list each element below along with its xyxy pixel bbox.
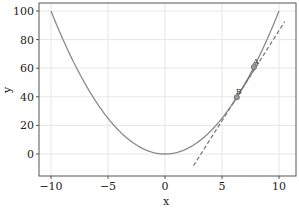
point-a-label: A (252, 57, 259, 66)
grid-lines (39, 3, 296, 176)
y-axis-ticks: 020406080100 (13, 5, 39, 161)
y-tick-label: 0 (27, 148, 34, 161)
y-tick-label: 100 (13, 5, 34, 18)
point-b-label: B (236, 87, 242, 96)
plot-series (51, 11, 285, 166)
y-tick-label: 20 (20, 119, 34, 132)
x-tick-label: −5 (100, 180, 116, 193)
x-tick-label: 0 (162, 180, 169, 193)
x-axis-label: x (163, 195, 170, 208)
y-tick-label: 80 (20, 34, 34, 47)
y-tick-label: 40 (20, 91, 34, 104)
x-tick-label: −10 (39, 180, 62, 193)
y-tick-label: 60 (20, 62, 34, 75)
axes-frame (39, 3, 296, 176)
x-tick-label: 5 (219, 180, 226, 193)
chart: AB −10−50510 020406080100 x y (0, 0, 299, 213)
x-axis-ticks: −10−50510 (39, 176, 286, 193)
labeled-points: AB (234, 57, 259, 100)
y-axis-label: y (1, 86, 14, 94)
x-tick-label: 10 (272, 180, 286, 193)
